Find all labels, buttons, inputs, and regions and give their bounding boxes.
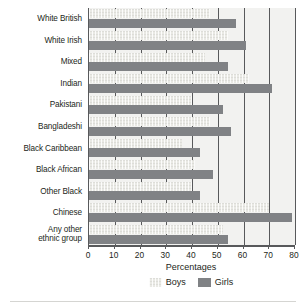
bar-row	[89, 182, 295, 191]
legend-item-girls: Girls	[198, 277, 234, 287]
category-label: Other Black	[0, 187, 82, 196]
bar-girls	[89, 62, 228, 71]
bar-row	[89, 203, 295, 212]
x-tick-20	[140, 245, 141, 249]
bar-girls	[89, 84, 272, 93]
x-tick-label-70: 70	[264, 250, 273, 260]
bar-boys	[89, 53, 205, 62]
bar-boys	[89, 182, 192, 191]
bar-row	[89, 105, 295, 114]
bar-girls	[89, 170, 213, 179]
bar-boys	[89, 117, 210, 126]
category-label: Black Caribbean	[0, 144, 82, 153]
bar-row	[89, 117, 295, 126]
category-label: White British	[0, 14, 82, 23]
x-tick-label-40: 40	[186, 250, 195, 260]
category-label: Black African	[0, 165, 82, 174]
x-tick-label-0: 0	[86, 250, 91, 260]
legend-label-boys: Boys	[166, 277, 186, 287]
x-axis-title: Percentages	[88, 262, 294, 272]
legend-swatch-boys-icon	[149, 278, 162, 287]
bar-girls	[89, 127, 231, 136]
bar-boys	[89, 225, 223, 234]
x-tick-0	[88, 245, 89, 249]
bar-row	[89, 127, 295, 136]
bar-boys	[89, 9, 210, 18]
x-tick-label-30: 30	[161, 250, 170, 260]
x-tick-label-50: 50	[212, 250, 221, 260]
bar-row	[89, 19, 295, 28]
x-tick-label-80: 80	[289, 250, 298, 260]
category-axis: White BritishWhite IrishMixedIndianPakis…	[0, 8, 86, 245]
category-label: Bangladeshi	[0, 122, 82, 131]
chart-legend: Boys Girls	[88, 277, 294, 287]
x-tick-50	[217, 245, 218, 249]
x-tick-80	[294, 245, 295, 249]
x-tick-label-20: 20	[135, 250, 144, 260]
bar-boys	[89, 31, 228, 40]
gridline-80	[295, 8, 296, 245]
bar-girls	[89, 213, 292, 222]
bar-row	[89, 170, 295, 179]
bar-row	[89, 96, 295, 105]
bar-row	[89, 225, 295, 234]
bottom-divider	[10, 301, 296, 302]
bar-boys	[89, 203, 269, 212]
x-tick-label-60: 60	[238, 250, 247, 260]
bar-row	[89, 160, 295, 169]
bar-row	[89, 148, 295, 157]
plot-area	[88, 8, 295, 245]
bar-row	[89, 41, 295, 50]
bar-row	[89, 235, 295, 244]
bar-row	[89, 139, 295, 148]
bar-boys	[89, 74, 249, 83]
bar-row	[89, 53, 295, 62]
bar-boys	[89, 139, 182, 148]
category-label: Pakistani	[0, 100, 82, 109]
legend-item-boys: Boys	[149, 277, 186, 287]
legend-swatch-girls-icon	[198, 278, 211, 287]
category-label: Any otherethnic group	[0, 225, 82, 243]
legend-label-girls: Girls	[215, 277, 234, 287]
x-tick-10	[114, 245, 115, 249]
bar-girls	[89, 191, 200, 200]
bar-chart: White BritishWhite IrishMixedIndianPakis…	[0, 0, 306, 304]
x-axis: 01020304050607080	[88, 245, 294, 247]
x-tick-label-10: 10	[109, 250, 118, 260]
bar-row	[89, 31, 295, 40]
x-tick-70	[268, 245, 269, 249]
bar-boys	[89, 96, 192, 105]
category-label: Mixed	[0, 57, 82, 66]
category-label: Chinese	[0, 208, 82, 217]
bar-girls	[89, 105, 223, 114]
bar-row	[89, 191, 295, 200]
category-label: White Irish	[0, 36, 82, 45]
x-tick-30	[165, 245, 166, 249]
category-label: Indian	[0, 79, 82, 88]
bar-girls	[89, 235, 228, 244]
x-tick-60	[243, 245, 244, 249]
bar-row	[89, 62, 295, 71]
bar-girls	[89, 19, 236, 28]
bar-row	[89, 213, 295, 222]
bar-row	[89, 74, 295, 83]
bar-boys	[89, 160, 195, 169]
bar-girls	[89, 41, 246, 50]
x-tick-40	[191, 245, 192, 249]
bar-row	[89, 84, 295, 93]
bar-row	[89, 9, 295, 18]
bar-girls	[89, 148, 200, 157]
